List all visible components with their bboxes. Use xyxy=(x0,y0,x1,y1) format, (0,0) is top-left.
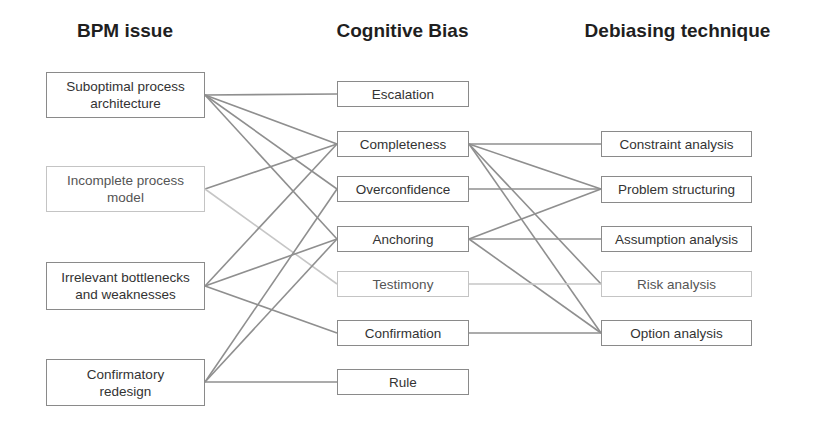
technique-label: Constraint analysis xyxy=(619,136,733,153)
bpm-issue-incomplete-process-model: Incomplete processmodel xyxy=(46,166,205,212)
bias-label: Anchoring xyxy=(373,231,434,248)
link-anchoring-option xyxy=(469,239,601,333)
bias-escalation: Escalation xyxy=(337,81,469,107)
link-confirmatory-overconfidence xyxy=(205,189,337,382)
technique-risk-analysis: Risk analysis xyxy=(601,271,752,297)
bias-overconfidence: Overconfidence xyxy=(337,176,469,202)
bias-label: Rule xyxy=(389,374,417,391)
technique-label: Assumption analysis xyxy=(615,231,738,248)
bpm-issue-irrelevant-bottlenecks: Irrelevant bottlenecksand weaknesses xyxy=(46,262,205,310)
technique-option-analysis: Option analysis xyxy=(601,320,752,346)
bias-label: Overconfidence xyxy=(356,181,451,198)
bpm-issue-label: Incomplete processmodel xyxy=(67,172,184,206)
link-completeness-problem xyxy=(469,144,601,189)
bpm-issue-label: Suboptimal processarchitecture xyxy=(66,78,185,112)
bias-completeness: Completeness xyxy=(337,131,469,157)
link-suboptimal-escalation xyxy=(205,94,337,95)
bpm-issue-label: Irrelevant bottlenecksand weaknesses xyxy=(61,269,189,303)
bias-label: Confirmation xyxy=(365,325,442,342)
link-confirmatory-anchoring xyxy=(205,239,337,382)
bias-testimony: Testimony xyxy=(337,271,469,297)
bias-label: Testimony xyxy=(373,276,434,293)
bias-label: Escalation xyxy=(372,86,434,103)
technique-label: Risk analysis xyxy=(637,276,716,293)
link-irrelevant-anchoring xyxy=(205,239,337,286)
link-anchoring-problem xyxy=(469,189,601,239)
bpm-issue-confirmatory-redesign: Confirmatoryredesign xyxy=(46,359,205,406)
bias-confirmation: Confirmation xyxy=(337,320,469,346)
link-incomplete-testimony xyxy=(205,189,337,284)
technique-assumption-analysis: Assumption analysis xyxy=(601,226,752,252)
bias-label: Completeness xyxy=(360,136,446,153)
link-suboptimal-overconfidence xyxy=(205,95,337,189)
technique-constraint-analysis: Constraint analysis xyxy=(601,131,752,157)
technique-problem-structuring: Problem structuring xyxy=(601,176,752,203)
link-irrelevant-completeness xyxy=(205,144,337,286)
technique-label: Option analysis xyxy=(630,325,722,342)
link-suboptimal-completeness xyxy=(205,95,337,144)
bias-rule: Rule xyxy=(337,369,469,395)
technique-label: Problem structuring xyxy=(618,181,735,198)
bpm-issue-suboptimal-process-architecture: Suboptimal processarchitecture xyxy=(46,72,205,118)
link-incomplete-completeness xyxy=(205,144,337,189)
bpm-issue-label: Confirmatoryredesign xyxy=(87,366,164,400)
bias-anchoring: Anchoring xyxy=(337,226,469,252)
